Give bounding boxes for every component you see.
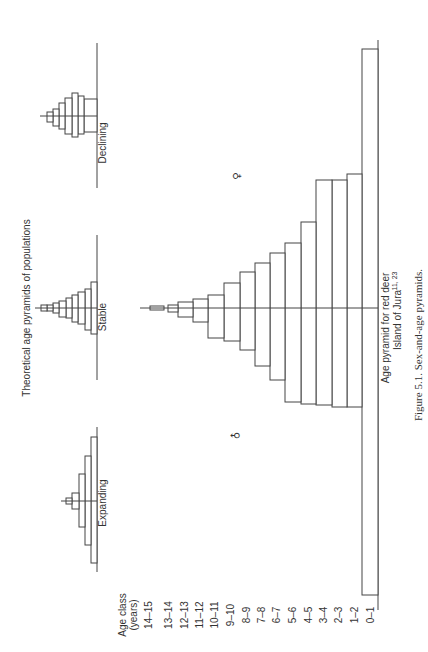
pyramid-expanding xyxy=(61,427,97,572)
main-pyramid xyxy=(140,40,378,610)
bar-12-13 xyxy=(178,302,193,317)
bar-5-6 xyxy=(285,243,301,402)
figure-canvas: Declining Stable Expanding Theoretical a… xyxy=(0,0,428,652)
figure-caption: Figure 5.1. Sex-and-age pyramids. xyxy=(412,269,424,421)
age-label: 11–12 xyxy=(194,601,205,629)
age-label: 10–11 xyxy=(209,601,220,629)
age-class-labels: 0–1 1–2 2–3 3–4 4–5 5–6 6–7 7–8 8–9 9–10… xyxy=(143,601,376,629)
age-label: 12–13 xyxy=(179,601,190,629)
female-symbol-icon: ♀ xyxy=(231,172,242,179)
age-label: 1–2 xyxy=(349,606,360,623)
age-label: 4–5 xyxy=(303,606,314,623)
age-label: 3–4 xyxy=(318,606,329,623)
axis-label-line1: Age class xyxy=(117,593,128,636)
age-label: 2–3 xyxy=(333,606,344,623)
theoretical-title: Theoretical age pyramids of populations xyxy=(21,219,32,396)
age-label: 14–15 xyxy=(143,601,154,629)
declining-bar xyxy=(78,96,84,134)
main-title: Age pyramid for red deer xyxy=(380,272,391,383)
age-label: 5–6 xyxy=(287,606,298,623)
label-stable: Stable xyxy=(97,302,108,331)
age-label: 8–9 xyxy=(241,606,252,623)
declining-bar xyxy=(72,93,78,137)
age-label: 0–1 xyxy=(365,606,376,623)
stable-bar xyxy=(59,301,66,317)
pyramid-declining xyxy=(40,43,97,188)
declining-bar xyxy=(53,109,59,126)
declining-bar xyxy=(47,112,53,122)
bar-3-4 xyxy=(316,180,332,405)
age-label: 6–7 xyxy=(271,606,282,623)
male-symbol-icon: ♂ xyxy=(228,428,242,442)
main-subtitle: Island of Jura xyxy=(392,290,403,350)
bar-7-8 xyxy=(255,263,270,366)
age-label: 13–14 xyxy=(163,601,174,629)
bar-10-11 xyxy=(208,295,224,338)
label-declining: Declining xyxy=(97,122,108,163)
bar-9-10 xyxy=(224,283,240,341)
bar-2-3 xyxy=(332,180,347,407)
stable-bar xyxy=(85,289,91,330)
bar-0-1 xyxy=(362,49,378,595)
age-label: 7–8 xyxy=(256,606,267,623)
bar-4-5 xyxy=(301,222,316,404)
bar-8-9 xyxy=(240,272,255,350)
bar-1-2 xyxy=(347,174,362,407)
main-superscript: 11, 23 xyxy=(391,271,398,290)
label-expanding: Expanding xyxy=(97,479,108,526)
age-label: 9–10 xyxy=(225,603,236,626)
pyramid-stable xyxy=(35,235,97,380)
axis-label-line2: (years) xyxy=(128,599,139,630)
bar-11-12 xyxy=(193,299,208,322)
bar-6-7 xyxy=(270,253,285,380)
